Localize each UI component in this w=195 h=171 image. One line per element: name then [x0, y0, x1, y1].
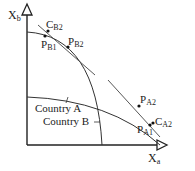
country-b-label: Country B [43, 115, 89, 127]
country-b-curve [27, 32, 102, 145]
label-p-a2: PA2 [140, 93, 156, 107]
y-axis-arrow-icon [22, 4, 32, 15]
ppf-diagram: Xb Xa CB2 PB1 PB2 PA2 PA1 CA2 Country A … [0, 0, 195, 171]
y-axis-label: Xb [8, 8, 21, 23]
country-a-label: Country A [35, 102, 81, 114]
x-axis-arrow-icon [157, 140, 167, 150]
label-c-b2: CB2 [46, 18, 63, 32]
label-p-b1: PB1 [41, 38, 56, 52]
label-c-a2: CA2 [155, 115, 172, 129]
x-axis-label: Xa [148, 151, 161, 166]
point-p-a1 [148, 123, 151, 126]
label-p-b2: PB2 [68, 35, 83, 49]
